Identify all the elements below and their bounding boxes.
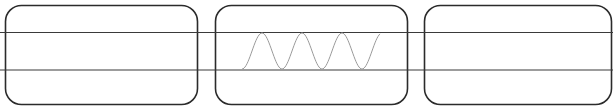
panel-left bbox=[6, 6, 198, 105]
panel-center bbox=[216, 6, 408, 105]
diagram-canvas bbox=[0, 0, 613, 108]
sine-wave bbox=[242, 33, 380, 69]
panel-right bbox=[425, 6, 612, 105]
